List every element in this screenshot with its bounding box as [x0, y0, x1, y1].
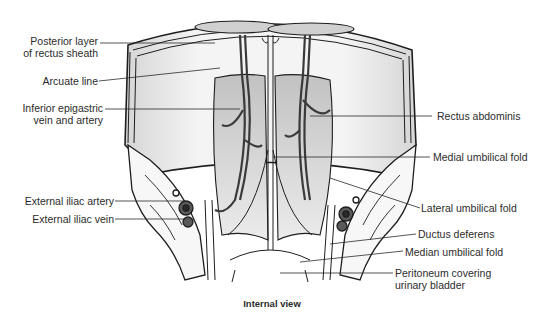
label-posterior-layer-rectus-sheath: Posterior layer of rectus sheath [5, 35, 98, 59]
label-line: urinary bladder [395, 279, 491, 291]
anatomy-figure: Posterior layer of rectus sheath Arcuate… [0, 0, 544, 322]
label-inferior-epigastric-vessels: Inferior epigastric vein and artery [5, 102, 103, 126]
label-line: External iliac artery [0, 195, 114, 207]
label-line: of rectus sheath [5, 47, 98, 59]
label-external-iliac-artery: External iliac artery [0, 195, 114, 207]
label-line: Rectus abdominis [437, 110, 520, 122]
label-lateral-umbilical-fold: Lateral umbilical fold [421, 202, 517, 214]
label-line: Peritoneum covering [395, 267, 491, 279]
label-arcuate-line: Arcuate line [5, 75, 98, 87]
label-ductus-deferens: Ductus deferens [418, 228, 494, 240]
label-line: Medial umbilical fold [433, 151, 528, 163]
label-line: Posterior layer [5, 35, 98, 47]
label-line: Arcuate line [5, 75, 98, 87]
label-line: Median umbilical fold [405, 246, 503, 258]
label-peritoneum-covering-bladder: Peritoneum covering urinary bladder [395, 267, 491, 291]
label-external-iliac-vein: External iliac vein [0, 213, 114, 225]
abdominal-wall [125, 24, 416, 175]
label-medial-umbilical-fold: Medial umbilical fold [433, 151, 528, 163]
label-line: Lateral umbilical fold [421, 202, 517, 214]
label-line: Inferior epigastric [5, 102, 103, 114]
label-rectus-abdominis: Rectus abdominis [437, 110, 520, 122]
label-line: Ductus deferens [418, 228, 494, 240]
label-median-umbilical-fold: Median umbilical fold [405, 246, 503, 258]
label-line: External iliac vein [0, 213, 114, 225]
label-line: vein and artery [5, 114, 103, 126]
figure-caption: Internal view [0, 298, 544, 309]
